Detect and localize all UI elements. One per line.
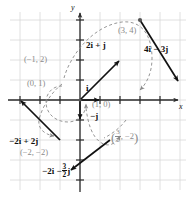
label-2i-plus-j: 2i + j (86, 41, 106, 50)
coord-three-halves-fraction: 32 (115, 129, 120, 144)
fraction-denominator: 2 (62, 170, 68, 178)
vector-diagram-figure: y x 2i + j 4i − 3j −2i + 2j i −j −2i −32… (0, 0, 189, 197)
coord-close-paren: ) (134, 133, 138, 143)
label-minus-2i-minus-three-halves-j: −2i −32j (42, 164, 70, 180)
fraction-numerator: 3 (62, 163, 68, 170)
coord-label-1-0: (1, 0) (92, 100, 110, 109)
coord-label-three-halves-neg2: (32, −2) (111, 130, 138, 145)
label-minus-2i-plus-2j: −2i + 2j (9, 137, 38, 146)
coord-fraction-denominator: 2 (115, 136, 120, 144)
point-3-4 (138, 18, 142, 22)
coord-label-3-4: (3, 4) (118, 26, 136, 35)
three-halves-fraction: 32 (62, 163, 68, 179)
label-minus-2i-part: −2i − (42, 166, 62, 176)
y-axis-label: y (71, 4, 75, 12)
label-j-part: j (67, 166, 70, 176)
coord-label-neg2-neg2: (−2, −2) (20, 148, 48, 157)
coord-label-neg1-2: (−1, 2) (24, 55, 47, 64)
label-unit-minus-j: −j (90, 112, 98, 121)
vector-minus-2i-plus-2j (21, 101, 60, 140)
coord-label-0-1: (0, 1) (27, 79, 45, 88)
label-unit-i: i (86, 84, 89, 93)
x-axis-label: x (179, 103, 183, 111)
coord-fraction-numerator: 3 (115, 129, 120, 136)
point-origin (78, 98, 81, 101)
vector-2i-plus-j (80, 61, 119, 100)
coord-second-component: , −2 (121, 131, 134, 141)
vector-minus-2i-minus-three-halves-j (71, 140, 110, 170)
label-4i-minus-3j: 4i − 3j (144, 45, 168, 54)
